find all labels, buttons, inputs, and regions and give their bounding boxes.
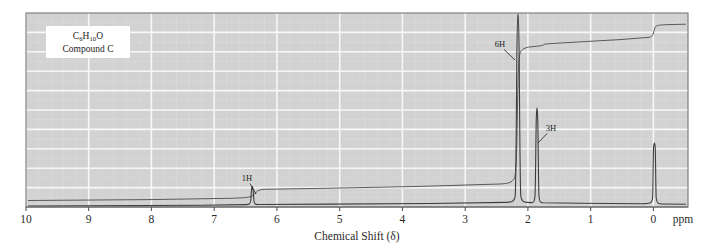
nmr-spectrum-figure: 10 9 8 7 6 5 4 3 2 1 0 ppm Chemical Shif…: [0, 0, 712, 251]
x-axis-caption: Chemical Shift (δ): [314, 230, 399, 243]
x-tick-label-7: 7: [211, 213, 217, 225]
formula-o: O: [96, 31, 103, 41]
sample-label-box: C6H10O Compound C: [46, 26, 130, 58]
x-tick-label-1: 1: [588, 213, 594, 225]
x-tick-label-2: 2: [525, 213, 531, 225]
annotation-3h-label: 3H: [546, 123, 556, 133]
x-tick-label-9: 9: [86, 213, 92, 225]
annotation-1h-label: 1H: [242, 173, 252, 183]
x-tick-label-8: 8: [149, 213, 155, 225]
x-tick-label-3: 3: [462, 213, 468, 225]
molecular-formula: C6H10O: [73, 31, 103, 42]
x-tick-label-6: 6: [274, 213, 280, 225]
annotation-6h-label: 6H: [495, 39, 505, 49]
ppm-unit-label: ppm: [673, 213, 694, 226]
x-tick-label-10: 10: [20, 213, 32, 225]
x-tick-label-5: 5: [337, 213, 343, 225]
spectrum-canvas: 10 9 8 7 6 5 4 3 2 1 0 ppm Chemical Shif…: [0, 0, 712, 251]
x-tick-label-0: 0: [651, 213, 657, 225]
x-tick-label-4: 4: [400, 213, 406, 225]
compound-name: Compound C: [63, 44, 114, 54]
